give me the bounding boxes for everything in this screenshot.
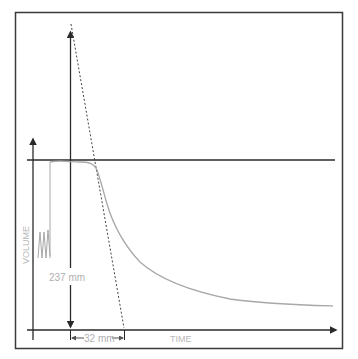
- volume-time-diagram: VOLUME TIME 237 mm 32 mm: [0, 0, 358, 359]
- oscillation-trace: [38, 230, 50, 258]
- vertical-measure-label: 237 mm: [49, 272, 85, 283]
- volume-curve: [50, 161, 333, 306]
- outer-frame: [16, 13, 343, 349]
- volume-axis-label: VOLUME: [21, 226, 31, 264]
- time-axis-label: TIME: [170, 334, 192, 344]
- horizontal-measure-label: 32 mm: [84, 333, 115, 344]
